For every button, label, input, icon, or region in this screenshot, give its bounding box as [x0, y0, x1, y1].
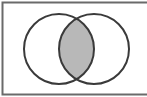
- venn-diagram: [0, 0, 147, 97]
